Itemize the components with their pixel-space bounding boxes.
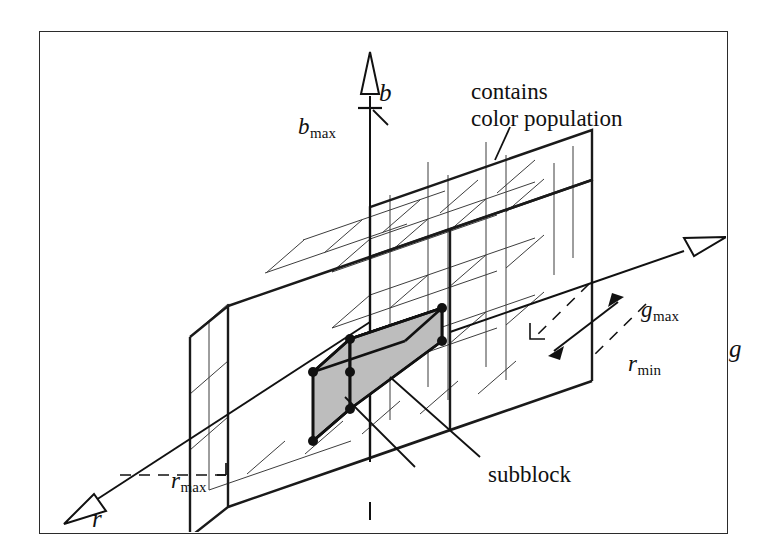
g-max-base: g	[641, 297, 653, 322]
diagram-drawing	[40, 32, 726, 532]
figure-canvas: contains color population b bmax g gmax …	[0, 0, 761, 559]
axis-label-b: b	[379, 80, 392, 105]
annotation-line-2: color population	[471, 106, 622, 133]
figure-frame: contains color population b bmax g gmax …	[39, 31, 728, 534]
axis-marker-b-max: bmax	[298, 115, 336, 138]
axis-marker-r-min: rmin	[628, 352, 661, 375]
annotation-subblock: subblock	[488, 463, 571, 486]
r-max-base: r	[171, 468, 180, 493]
r-min-guides	[534, 284, 646, 358]
b-max-base: b	[298, 114, 310, 139]
r-min-guide-ticks	[530, 323, 545, 339]
r-max-subscript: max	[180, 479, 206, 495]
r-min-base: r	[628, 351, 637, 376]
subblock-solid	[308, 303, 447, 446]
axis-label-r: r	[92, 506, 102, 531]
b-max-subscript: max	[310, 125, 336, 141]
annotation-contains-color-population: contains color population	[471, 79, 622, 133]
r-min-arrow	[548, 293, 624, 360]
axis-b	[358, 52, 382, 520]
r-min-subscript: min	[637, 362, 661, 378]
axis-label-g: g	[729, 336, 742, 361]
axis-marker-r-max: rmax	[171, 469, 206, 492]
r-max-extent-ticks	[217, 463, 226, 475]
annotation-line-1: contains	[471, 79, 622, 106]
axis-marker-g-max: gmax	[641, 298, 679, 321]
g-max-subscript: max	[653, 308, 679, 324]
grid-lines	[190, 142, 573, 507]
